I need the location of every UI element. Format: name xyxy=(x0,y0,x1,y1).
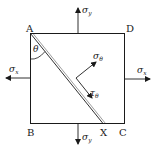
element-square xyxy=(31,34,125,124)
tau-theta-label: τθ xyxy=(90,88,99,99)
sigma-y-top-label: σy xyxy=(82,5,92,17)
sigma-x-left-label: σx xyxy=(9,64,19,75)
corner-label-c: C xyxy=(119,127,127,138)
theta-label: θ xyxy=(33,44,39,54)
sigma-theta-arrow xyxy=(76,62,96,78)
inclined-plane-ax xyxy=(31,34,106,124)
stress-element-diagram: θ σy σy σx σx σθ τθ A D B X C xyxy=(0,0,155,152)
corner-label-b: B xyxy=(27,127,34,138)
sigma-y-bottom-label: σy xyxy=(82,132,92,144)
corner-label-a: A xyxy=(25,23,34,34)
corner-label-d: D xyxy=(126,23,134,34)
sigma-x-right-label: σx xyxy=(137,65,147,76)
corner-label-x: X xyxy=(100,127,108,138)
sigma-theta-label: σθ xyxy=(93,51,103,62)
